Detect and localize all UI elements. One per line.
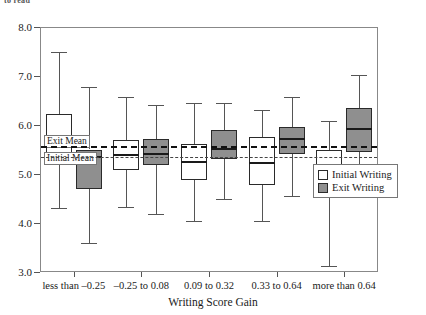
median-line	[249, 162, 275, 164]
y-tick-label: 6.0	[18, 119, 32, 131]
legend-swatch-exit-icon	[318, 183, 328, 193]
y-tick-mark	[34, 125, 40, 126]
whisker-lower	[262, 185, 263, 221]
box-exit	[211, 130, 237, 159]
whisker-cap-upper	[284, 97, 300, 98]
whisker-lower	[329, 196, 330, 266]
whisker-cap-upper	[321, 121, 337, 122]
whisker-cap-upper	[148, 105, 164, 106]
whisker-upper	[194, 103, 195, 144]
x-tick-label: 0.09 to 0.32	[184, 280, 234, 291]
y-tick-mark	[34, 272, 40, 273]
y-tick-mark	[34, 27, 40, 28]
median-line	[279, 138, 305, 140]
box-exit	[279, 127, 305, 154]
whisker-cap-upper	[81, 87, 97, 88]
y-tick-mark	[34, 174, 40, 175]
whisker-cap-lower	[186, 221, 202, 222]
whisker-cap-lower	[254, 221, 270, 222]
exit-mean-line	[41, 146, 377, 148]
whisker-upper	[59, 52, 60, 115]
whisker-upper	[262, 110, 263, 137]
y-tick-label: 5.0	[18, 168, 32, 180]
whisker-lower	[126, 170, 127, 207]
legend-label-initial: Initial Writing	[332, 168, 392, 181]
median-line	[346, 128, 372, 130]
median-line	[143, 153, 169, 155]
whisker-lower	[292, 154, 293, 196]
whisker-upper	[292, 97, 293, 128]
whisker-upper	[126, 97, 127, 140]
box-exit	[143, 139, 169, 165]
whisker-cap-upper	[186, 103, 202, 104]
whisker-cap-upper	[216, 103, 232, 104]
whisker-cap-lower	[321, 266, 337, 267]
y-tick-label: 7.0	[18, 70, 32, 82]
whisker-upper	[359, 75, 360, 108]
x-tick-label: less than –0.25	[42, 280, 105, 291]
initial-mean-line	[41, 157, 377, 158]
x-tick-mark	[277, 272, 278, 277]
whisker-lower	[59, 164, 60, 208]
whisker-cap-lower	[284, 196, 300, 197]
legend-swatch-initial-icon	[318, 170, 328, 180]
legend-label-exit: Exit Writing	[332, 181, 384, 194]
y-tick-label: 3.0	[18, 266, 32, 278]
whisker-cap-lower	[216, 199, 232, 200]
legend-item-exit-writing: Exit Writing	[318, 181, 392, 194]
x-tick-label: –0.25 to 0.08	[114, 280, 169, 291]
x-tick-mark	[141, 272, 142, 277]
y-tick-label: 8.0	[18, 21, 32, 33]
whisker-cap-lower	[118, 207, 134, 208]
whisker-lower	[194, 180, 195, 221]
whisker-cap-upper	[51, 52, 67, 53]
y-tick-mark	[34, 76, 40, 77]
whisker-cap-lower	[51, 208, 67, 209]
box-plot-figure: to read Exit Mean Initial Mean Writing S…	[0, 0, 426, 315]
box-initial	[249, 137, 275, 185]
y-tick-label: 4.0	[18, 217, 32, 229]
x-tick-mark	[344, 272, 345, 277]
initial-mean-label: Initial Mean	[44, 152, 97, 165]
whisker-upper	[156, 105, 157, 138]
whisker-upper	[224, 103, 225, 130]
whisker-cap-lower	[148, 214, 164, 215]
x-tick-mark	[74, 272, 75, 277]
whisker-lower	[89, 189, 90, 243]
whisker-lower	[156, 165, 157, 214]
whisker-cap-upper	[118, 97, 134, 98]
x-tick-label: 0.33 to 0.64	[252, 280, 302, 291]
legend: Initial Writing Exit Writing	[313, 164, 398, 198]
y-tick-mark	[34, 223, 40, 224]
x-axis-title: Writing Score Gain	[0, 296, 426, 308]
whisker-lower	[224, 159, 225, 199]
x-tick-label: more than 0.64	[313, 280, 376, 291]
whisker-cap-upper	[254, 110, 270, 111]
whisker-cap-lower	[81, 243, 97, 244]
x-tick-mark	[209, 272, 210, 277]
whisker-cap-upper	[351, 75, 367, 76]
median-line	[181, 161, 207, 163]
legend-item-initial-writing: Initial Writing	[318, 168, 392, 181]
